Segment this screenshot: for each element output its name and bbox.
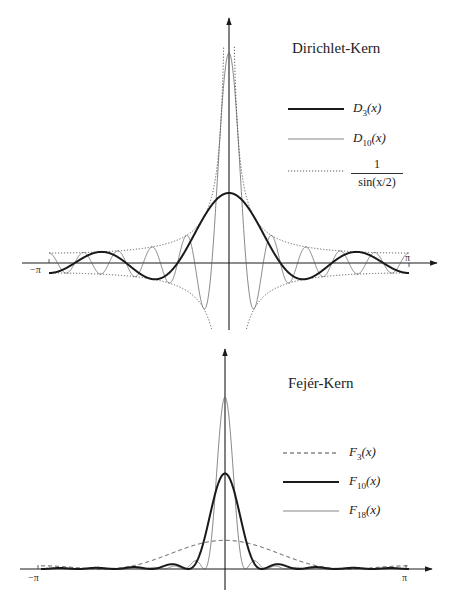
legend-label-f18: F18(x) [349,502,380,520]
legend-d10-symbol: D [353,130,362,145]
fejer-tick-label-pi: π [402,572,407,583]
legend-f18-subscript: 18 [357,510,366,520]
legend-f10-subscript: 10 [357,481,366,491]
legend-d3-arg: (x) [367,100,381,115]
fejer-chart [20,349,432,590]
legend-f3-arg: (x) [361,444,375,459]
fejer-tick-label-neg-pi: −π [28,572,39,583]
legend-d3-symbol: D [353,100,362,115]
legend-f18-arg: (x) [366,502,380,517]
dirichlet-tick-label-pi: π [405,252,410,263]
legend-label-f10: F10(x) [349,473,380,491]
legend-label-f3: F3(x) [349,444,376,462]
dirichlet-tick-label-neg-pi: −π [30,264,41,275]
kernel-plots [0,0,453,599]
legend-f3-symbol: F [349,444,357,459]
legend-d10-arg: (x) [371,130,385,145]
legend-label-envelope: 1 sin(x/2) [351,157,403,190]
legend-label-d10: D10(x) [353,130,386,148]
legend-f10-symbol: F [349,473,357,488]
legend-envelope-numerator: 1 [351,157,403,174]
legend-label-d3: D3(x) [353,100,381,118]
legend-f18-symbol: F [349,502,357,517]
dirichlet-title: Dirichlet-Kern [292,40,380,57]
legend-f10-arg: (x) [366,473,380,488]
legend-envelope-denominator: sin(x/2) [351,174,403,190]
fejer-title: Fejér-Kern [288,375,354,392]
